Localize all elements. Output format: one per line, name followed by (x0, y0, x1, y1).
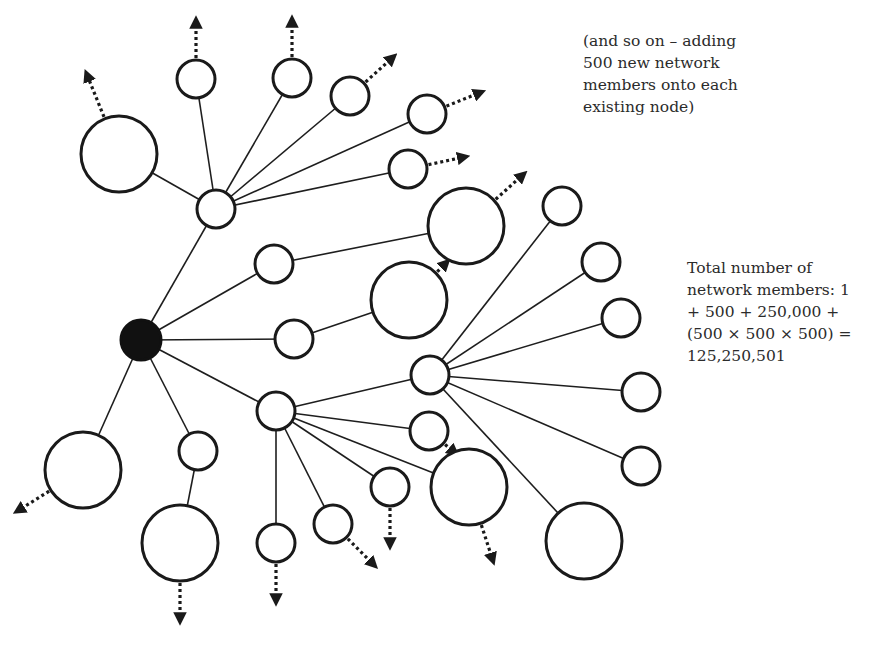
member-node-D2 (410, 412, 448, 450)
continuation-arrow-icon (19, 491, 50, 510)
member-node-L1f (179, 432, 217, 470)
member-node-E3 (602, 299, 640, 337)
edges (83, 78, 641, 543)
member-node-F1 (142, 505, 218, 581)
member-node-D3 (431, 449, 507, 525)
continuation-arrow-icon (496, 175, 523, 199)
edge-root-L1a (141, 209, 216, 340)
continuation-arrow-icon (366, 58, 393, 82)
continuation-arrow-icon (437, 263, 445, 271)
member-node-D6 (257, 524, 295, 562)
continuation-arrow-icon (481, 525, 492, 559)
member-node-L1e (45, 432, 121, 508)
member-node-A3 (273, 59, 311, 97)
member-node-E5 (622, 447, 660, 485)
edge-root-L1c (141, 339, 294, 340)
member-node-A6 (389, 150, 427, 188)
edge-root-L1d (141, 340, 276, 411)
edge-L1a-A6 (216, 169, 408, 209)
member-node-L1a (197, 190, 235, 228)
member-node-B1 (428, 188, 504, 264)
member-node-D1 (411, 356, 449, 394)
member-node-L1b (255, 245, 293, 283)
member-node-E6 (546, 503, 622, 579)
edge-D1-E3 (430, 318, 621, 375)
member-node-A4 (331, 77, 369, 115)
member-node-A5 (408, 95, 446, 133)
edge-L1d-D1 (276, 375, 430, 411)
edge-L1d-D2 (276, 411, 429, 431)
member-node-E1 (543, 187, 581, 225)
member-node-D4 (371, 468, 409, 506)
continuation-arrow-icon (348, 539, 373, 564)
continuation-note: (and so on – adding 500 new network memb… (583, 30, 803, 118)
root-node (121, 320, 161, 360)
member-node-E2 (582, 243, 620, 281)
member-node-A2 (177, 60, 215, 98)
edge-L1a-A3 (216, 78, 292, 209)
continuation-arrow-icon (429, 157, 464, 164)
member-node-L1d (257, 392, 295, 430)
member-node-L1c (275, 320, 313, 358)
continuation-arrow-icon (87, 75, 104, 117)
member-node-A1 (81, 116, 157, 192)
member-node-C1 (371, 262, 447, 338)
edge-L1a-A4 (216, 96, 350, 209)
edge-root-L1b (141, 264, 274, 340)
member-node-D5 (314, 505, 352, 543)
total-members-note: Total number of network members: 1 + 500… (687, 257, 887, 367)
edge-D1-E2 (430, 262, 601, 375)
continuation-arrow-icon (446, 93, 479, 106)
member-node-E4 (622, 373, 660, 411)
